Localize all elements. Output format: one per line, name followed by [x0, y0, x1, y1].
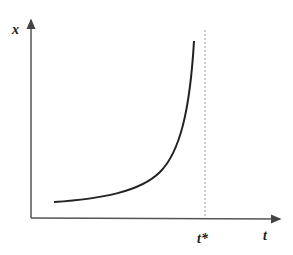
- x-axis: [31, 218, 280, 219]
- asymptote-label: t*: [197, 231, 209, 246]
- diagram-canvas: x t* t: [0, 0, 293, 255]
- x-axis-label: t: [263, 228, 268, 243]
- growth-curve: [54, 41, 194, 202]
- y-axis-label: x: [11, 22, 19, 37]
